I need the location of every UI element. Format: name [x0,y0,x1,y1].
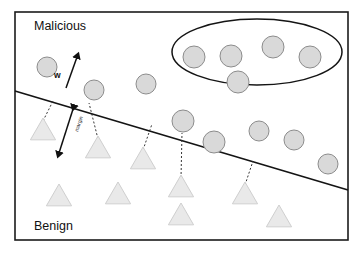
weight-vector-label: w [53,70,61,80]
malicious-data-point [172,110,194,132]
malicious-data-point [262,36,284,58]
malicious-data-point [203,131,225,153]
malicious-data-point [220,45,242,67]
malicious-data-point [84,80,104,100]
benign-class-label: Benign [34,219,73,233]
malicious-class-label: Malicious [34,19,86,33]
diagram-canvas: Malicious Benign w margin [0,0,361,253]
malicious-data-point [299,46,321,68]
malicious-data-point [227,71,249,93]
malicious-data-point [136,74,156,94]
svm-diagram-figure: Malicious Benign w margin [0,0,361,253]
malicious-data-point [318,154,338,174]
malicious-data-point [249,121,269,141]
malicious-data-point [284,130,304,150]
malicious-data-point [183,46,205,68]
